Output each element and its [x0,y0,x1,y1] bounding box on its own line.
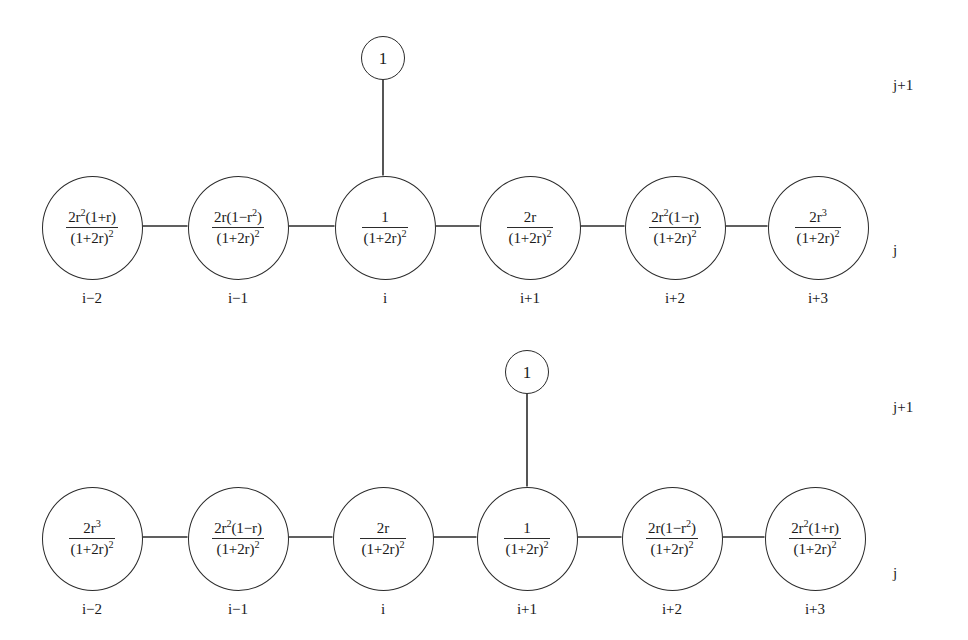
fraction-denominator: (1+2r)2 [646,539,698,557]
node-index-label: i−2 [62,602,122,617]
fraction-numerator: 2r(1−r2) [646,520,698,538]
node-index-label: i+1 [497,602,557,617]
node-index-label: i+2 [642,602,702,617]
pendant-node[interactable]: 1 [505,350,549,394]
fraction-numerator: 1 [504,520,551,538]
node-weight-fraction: 2r(1−r2) (1+2r)2 [646,520,698,556]
graph-node-i1[interactable]: 2r(1−r2) (1+2r)2 [188,176,289,280]
superscript: 2 [108,539,113,550]
fraction-denominator: (1+2r)2 [789,539,841,557]
fraction-denominator: (1+2r)2 [504,539,551,557]
pendant-node[interactable]: 1 [361,36,405,80]
graph-node-i2[interactable]: 2r3 (1+2r)2 [42,487,143,591]
fraction-denominator: (1+2r)2 [362,228,409,246]
node-weight-fraction: 2r2(1−r) (1+2r)2 [212,520,264,556]
node-index-label: i+3 [785,602,845,617]
row-label-j: j [893,243,897,258]
node-index-label: i+3 [788,291,848,306]
superscript: 2 [663,207,668,218]
graph-node-i+1[interactable]: 1 (1+2r)2 [477,487,578,591]
node-index-label: i+1 [500,291,560,306]
superscript: 2 [226,518,231,529]
graph-node-i[interactable]: 2r (1+2r)2 [333,487,434,591]
node-weight-fraction: 2r2(1+r) (1+2r)2 [66,209,118,245]
node-weight-fraction: 2r2(1−r) (1+2r)2 [649,209,701,245]
fraction-denominator: (1+2r)2 [212,539,264,557]
node-index-label: i−1 [208,291,268,306]
superscript: 2 [401,228,406,239]
node-index-label: i+2 [645,291,705,306]
superscript: 2 [254,539,259,550]
node-index-label: i−1 [208,602,268,617]
superscript: 2 [108,228,113,239]
row-label-j-plus-1: j+1 [893,400,913,415]
node-weight-fraction: 2r3 (1+2r)2 [795,209,842,245]
row-label-j-plus-1: j+1 [893,78,913,93]
fraction-denominator: (1+2r)2 [649,228,701,246]
row-label-j: j [893,566,897,581]
fraction-numerator: 2r2(1−r) [649,209,701,227]
node-index-label: i [353,602,413,617]
superscript: 3 [822,207,827,218]
fraction-numerator: 2r2(1−r) [212,520,264,538]
figure-canvas: 1 2r2(1+r) (1+2r)2 i−2 2r(1−r2) (1+2r)2 … [0,0,968,640]
graph-node-i+1[interactable]: 2r (1+2r)2 [480,176,581,280]
fraction-numerator: 2r [507,209,554,227]
fraction-denominator: (1+2r)2 [507,228,554,246]
fraction-denominator: (1+2r)2 [212,228,264,246]
graph-node-i+2[interactable]: 2r(1−r2) (1+2r)2 [622,487,723,591]
graph-node-i2[interactable]: 2r2(1+r) (1+2r)2 [42,176,143,280]
fraction-numerator: 2r [360,520,407,538]
graph-node-i+3[interactable]: 2r2(1+r) (1+2r)2 [765,487,866,591]
superscript: 2 [831,539,836,550]
node-weight-fraction: 2r(1−r2) (1+2r)2 [212,209,264,245]
fraction-denominator: (1+2r)2 [66,228,118,246]
superscript: 2 [543,539,548,550]
graph-node-i1[interactable]: 2r2(1−r) (1+2r)2 [188,487,289,591]
fraction-numerator: 2r2(1+r) [66,209,118,227]
fraction-numerator: 2r2(1+r) [789,520,841,538]
fraction-denominator: (1+2r)2 [360,539,407,557]
node-weight-fraction: 2r (1+2r)2 [507,209,554,245]
superscript: 2 [688,539,693,550]
superscript: 2 [254,228,259,239]
fraction-denominator: (1+2r)2 [69,539,116,557]
node-weight-fraction: 1 (1+2r)2 [504,520,551,556]
superscript: 2 [691,228,696,239]
superscript: 2 [252,207,257,218]
superscript: 2 [834,228,839,239]
superscript: 2 [803,518,808,529]
node-weight-fraction: 2r (1+2r)2 [360,520,407,556]
fraction-numerator: 2r3 [69,520,116,538]
graph-node-i+2[interactable]: 2r2(1−r) (1+2r)2 [625,176,726,280]
node-index-label: i−2 [62,291,122,306]
fraction-numerator: 1 [362,209,409,227]
pendant-node-label: 1 [379,50,388,67]
superscript: 2 [686,518,691,529]
graph-node-i[interactable]: 1 (1+2r)2 [335,176,436,280]
fraction-denominator: (1+2r)2 [795,228,842,246]
fraction-numerator: 2r3 [795,209,842,227]
graph-node-i+3[interactable]: 2r3 (1+2r)2 [768,176,869,280]
superscript: 2 [546,228,551,239]
node-weight-fraction: 2r3 (1+2r)2 [69,520,116,556]
superscript: 3 [96,518,101,529]
node-weight-fraction: 2r2(1+r) (1+2r)2 [789,520,841,556]
pendant-node-label: 1 [523,364,532,381]
node-weight-fraction: 1 (1+2r)2 [362,209,409,245]
fraction-numerator: 2r(1−r2) [212,209,264,227]
superscript: 2 [80,207,85,218]
node-index-label: i [355,291,415,306]
superscript: 2 [399,539,404,550]
